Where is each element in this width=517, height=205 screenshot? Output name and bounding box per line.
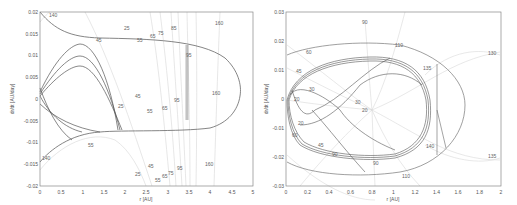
svg-text:0.005: 0.005 <box>25 74 38 80</box>
svg-text:160: 160 <box>205 161 214 167</box>
svg-text:45: 45 <box>148 163 154 169</box>
svg-text:0.8: 0.8 <box>369 189 376 195</box>
svg-text:-0.02: -0.02 <box>27 183 39 189</box>
svg-text:0: 0 <box>281 96 284 102</box>
right-diagonal-line <box>437 110 446 148</box>
svg-text:110: 110 <box>395 42 403 48</box>
right-y-axis-label: dr/dt [AU/day] <box>263 83 269 114</box>
svg-text:-0.015: -0.015 <box>24 161 38 167</box>
svg-text:0.4: 0.4 <box>326 189 333 195</box>
svg-text:45: 45 <box>96 37 102 43</box>
left-x-axis-label: r [AU] <box>140 196 153 202</box>
svg-text:0.02: 0.02 <box>28 9 38 15</box>
svg-text:4.5: 4.5 <box>229 189 236 195</box>
svg-text:30: 30 <box>309 86 315 92</box>
svg-text:1.2: 1.2 <box>412 189 419 195</box>
svg-text:0.5: 0.5 <box>58 189 65 195</box>
svg-text:65: 65 <box>162 105 168 111</box>
left-boundary-curve <box>40 12 240 162</box>
svg-text:55: 55 <box>137 37 143 43</box>
svg-text:20: 20 <box>294 96 300 102</box>
svg-text:1.4: 1.4 <box>433 189 440 195</box>
svg-text:-0.03: -0.03 <box>273 183 285 189</box>
svg-text:0.02: 0.02 <box>274 38 284 44</box>
svg-text:95: 95 <box>186 52 192 58</box>
svg-text:55: 55 <box>88 142 94 148</box>
svg-text:4: 4 <box>209 189 212 195</box>
right-axes-box <box>286 12 501 186</box>
svg-text:0.015: 0.015 <box>25 31 38 37</box>
right-orbit-bundle <box>287 57 431 172</box>
figure: 140 25 45 55 65 75 85 95 160 160 45 55 6… <box>0 0 517 205</box>
svg-text:-0.005: -0.005 <box>24 118 38 124</box>
svg-text:0.01: 0.01 <box>28 52 38 58</box>
svg-text:0: 0 <box>285 189 288 195</box>
right-contour-labels: 60 45 30 20 20 20 30 45 60 90 110 90 135… <box>292 19 497 179</box>
right-y-ticks: 0.03 0.02 0.01 0 -0.01 -0.02 -0.03 <box>273 9 285 189</box>
svg-text:140: 140 <box>49 12 58 18</box>
svg-text:95: 95 <box>177 165 183 171</box>
svg-text:45: 45 <box>135 93 141 99</box>
svg-text:160: 160 <box>215 20 224 26</box>
svg-text:90: 90 <box>373 160 379 166</box>
svg-text:20: 20 <box>362 107 368 113</box>
svg-text:1.8: 1.8 <box>476 189 483 195</box>
svg-text:20: 20 <box>298 120 304 126</box>
svg-text:0: 0 <box>39 189 42 195</box>
left-contours <box>40 12 220 186</box>
svg-text:130: 130 <box>488 50 497 56</box>
svg-text:1: 1 <box>392 189 395 195</box>
svg-text:-0.01: -0.01 <box>27 139 39 145</box>
svg-text:65: 65 <box>162 173 168 179</box>
svg-text:75: 75 <box>158 30 164 36</box>
svg-text:90: 90 <box>332 151 338 157</box>
left-y-axis-label: dr/dt [AU/day] <box>9 83 15 114</box>
svg-text:0: 0 <box>35 96 38 102</box>
svg-text:135: 135 <box>488 153 497 159</box>
svg-text:90: 90 <box>362 19 368 25</box>
svg-text:2: 2 <box>500 189 503 195</box>
svg-text:25: 25 <box>118 103 124 109</box>
svg-text:65: 65 <box>150 33 156 39</box>
right-outer-ellipse <box>287 43 465 175</box>
svg-text:1.5: 1.5 <box>101 189 108 195</box>
svg-text:2: 2 <box>124 189 127 195</box>
left-y-ticks: 0.02 0.015 0.01 0.005 0 -0.005 -0.01 -0.… <box>24 9 38 189</box>
svg-text:85: 85 <box>171 25 177 31</box>
svg-text:1.6: 1.6 <box>455 189 462 195</box>
right-plot: 60 45 30 20 20 20 30 45 60 90 110 90 135… <box>263 9 503 202</box>
svg-text:55: 55 <box>147 108 153 114</box>
svg-text:-0.02: -0.02 <box>273 154 285 160</box>
svg-text:75: 75 <box>168 170 174 176</box>
svg-text:110: 110 <box>402 173 410 179</box>
left-plot: 140 25 45 55 65 75 85 95 160 160 45 55 6… <box>9 9 255 202</box>
svg-text:45: 45 <box>318 142 324 148</box>
svg-text:55: 55 <box>155 177 161 183</box>
svg-text:0.01: 0.01 <box>274 67 284 73</box>
svg-text:30: 30 <box>355 99 361 105</box>
right-x-ticks: 0 0.2 0.4 0.6 0.8 1 1.2 1.4 1.6 1.8 2 <box>285 189 503 195</box>
svg-text:25: 25 <box>124 25 130 31</box>
svg-text:0.6: 0.6 <box>347 189 354 195</box>
svg-text:60: 60 <box>292 132 298 138</box>
svg-text:5: 5 <box>252 189 255 195</box>
svg-text:160: 160 <box>212 90 221 96</box>
svg-text:60: 60 <box>306 49 312 55</box>
left-trajectories <box>40 44 122 140</box>
left-x-ticks: 0 0.5 1 1.5 2 2.5 3 3.5 4 4.5 5 <box>39 189 255 195</box>
left-axes-box <box>40 12 253 186</box>
svg-text:135: 135 <box>423 65 432 71</box>
svg-text:95: 95 <box>174 97 180 103</box>
svg-text:2.5: 2.5 <box>143 189 150 195</box>
svg-text:140: 140 <box>426 143 435 149</box>
svg-text:0.03: 0.03 <box>274 9 284 15</box>
svg-text:0.2: 0.2 <box>304 189 311 195</box>
svg-text:3: 3 <box>167 189 170 195</box>
svg-text:25: 25 <box>135 171 141 177</box>
right-x-axis-label: r [AU] <box>387 196 400 202</box>
svg-text:-0.01: -0.01 <box>273 125 285 131</box>
svg-text:140: 140 <box>42 155 51 161</box>
svg-text:1: 1 <box>82 189 85 195</box>
svg-text:45: 45 <box>296 68 302 74</box>
svg-text:3.5: 3.5 <box>186 189 193 195</box>
